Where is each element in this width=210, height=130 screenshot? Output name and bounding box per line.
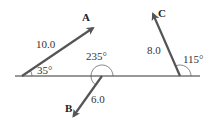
vector-c-name: C	[158, 7, 166, 19]
vector-a-angle-arc	[30, 70, 32, 76]
vector-b-angle: 235°	[86, 50, 107, 62]
vector-b-angle-arc	[91, 65, 113, 85]
vector-a-magnitude: 10.0	[36, 38, 56, 50]
vector-c-angle: 115°	[183, 53, 204, 65]
vector-a: A 10.0 35°	[22, 11, 93, 76]
vector-a-arrow	[22, 28, 93, 76]
vector-b-magnitude: 6.0	[91, 93, 105, 105]
vector-c-magnitude: 8.0	[147, 44, 161, 56]
vector-b: B 6.0 235°	[65, 50, 113, 116]
vector-b-name: B	[65, 102, 73, 114]
vector-a-angle: 35°	[37, 64, 52, 76]
vector-diagram: A 10.0 35° B 6.0 235° C 8.0 115°	[0, 0, 210, 130]
vector-c: C 8.0 115°	[147, 7, 204, 76]
vector-a-name: A	[82, 11, 90, 23]
